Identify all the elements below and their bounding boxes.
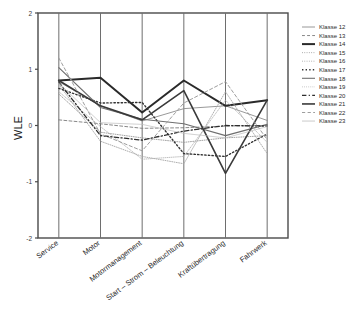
- y-tick-label: 0: [28, 122, 32, 129]
- y-tick-label: 1: [28, 66, 32, 73]
- legend-label: Klasse 15: [319, 50, 346, 56]
- legend-label: Klasse 12: [319, 24, 346, 30]
- legend-label: Klasse 21: [319, 101, 346, 107]
- y-axis-title: WLE: [12, 116, 24, 140]
- legend-label: Klasse 14: [319, 41, 346, 47]
- y-tick-label: -1: [26, 178, 32, 185]
- x-category-label: Fahrwerk: [238, 238, 269, 264]
- y-tick-label: -2: [26, 235, 32, 242]
- legend-label: Klasse 16: [319, 58, 346, 64]
- legend-label: Klasse 19: [319, 84, 346, 90]
- legend-label: Klasse 22: [319, 110, 346, 116]
- legend-label: Klasse 20: [319, 93, 346, 99]
- legend-label: Klasse 18: [319, 76, 346, 82]
- x-category-label: Motor: [81, 238, 102, 257]
- x-axis-category-labels: ServiceMotorMotormanagementStart – Strom…: [35, 238, 269, 302]
- legend-label: Klasse 17: [319, 67, 346, 73]
- series-line-klasse-14: [59, 78, 267, 113]
- x-category-label: Start – Strom – Beleuchtung: [104, 238, 185, 302]
- data-series-lines: [59, 58, 267, 173]
- legend-label: Klasse 13: [319, 33, 346, 39]
- chart-legend: Klasse 12Klasse 13Klasse 14Klasse 15Klas…: [302, 24, 346, 124]
- y-tick-label: 2: [28, 10, 32, 17]
- parallel-coordinates-chart: 210-1-2 ServiceMotorMotormanagementStart…: [0, 0, 364, 318]
- legend-label: Klasse 23: [319, 118, 346, 124]
- y-axis-ticks: 210-1-2: [26, 10, 38, 242]
- x-category-label: Service: [35, 238, 60, 260]
- chart-figure: 210-1-2 ServiceMotorMotormanagementStart…: [0, 0, 364, 318]
